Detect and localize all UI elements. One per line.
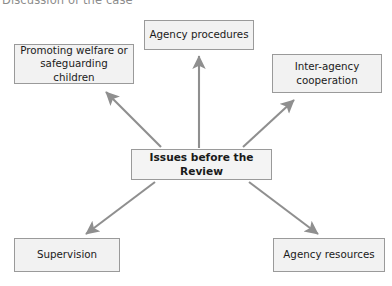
node-issues-before-the-review[interactable]: Issues before the Review	[131, 149, 272, 180]
node-label: Agency procedures	[149, 28, 248, 42]
node-label: Promoting welfare or safeguarding childr…	[18, 44, 130, 85]
arrow-center-to-interagency	[243, 100, 294, 147]
node-label: Inter-agency cooperation	[295, 60, 360, 87]
node-label: Supervision	[37, 248, 97, 262]
node-label: Agency resources	[283, 248, 374, 262]
node-promoting-welfare[interactable]: Promoting welfare or safeguarding childr…	[14, 44, 134, 84]
arrow-center-to-resources	[249, 182, 318, 234]
arrow-center-to-welfare	[106, 92, 161, 147]
node-agency-procedures[interactable]: Agency procedures	[144, 20, 254, 50]
node-agency-resources[interactable]: Agency resources	[273, 238, 385, 272]
diagram-canvas: Discussion of the case Agency procedures…	[0, 0, 392, 286]
node-label: Issues before the Review	[135, 151, 268, 178]
arrow-center-to-supervision	[86, 182, 155, 234]
node-inter-agency-cooperation[interactable]: Inter-agency cooperation	[272, 54, 382, 93]
node-supervision[interactable]: Supervision	[14, 238, 120, 272]
